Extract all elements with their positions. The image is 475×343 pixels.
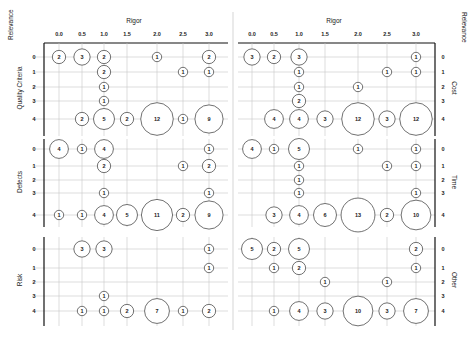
other-bubble-count: 1 xyxy=(385,279,388,285)
right-x-tick-label: 3.0 xyxy=(412,31,420,37)
left-x-tick-label: 0.5 xyxy=(78,31,86,37)
cost-y-tick-label: 4 xyxy=(441,116,445,122)
time-bubble-count: 1 xyxy=(414,163,417,169)
cost-y-tick-label: 1 xyxy=(441,69,444,75)
time-y-tick-label: 2 xyxy=(441,177,444,183)
left-x-tick-label: 2.5 xyxy=(179,31,187,37)
right-x-tick-label: 0.0 xyxy=(248,31,256,37)
time-bubble-count: 10 xyxy=(413,212,419,218)
other-bubble-count: 1 xyxy=(414,265,417,271)
risk-y-tick-label: 0 xyxy=(32,246,35,252)
risk-y-tick-label: 1 xyxy=(32,265,35,271)
quality-criteria-bubble-count: 3 xyxy=(80,54,83,60)
risk-panel-label: Risk xyxy=(16,273,23,286)
risk-bubble-count: 1 xyxy=(181,308,184,314)
quality-criteria-panel-label: Quality Criteria xyxy=(16,66,24,109)
risk-bubble-count: 3 xyxy=(102,246,105,252)
left-y-axis-title: Relevance xyxy=(7,9,14,40)
defects-y-tick-label: 0 xyxy=(32,146,35,152)
defects-bubble-count: 1 xyxy=(80,146,83,152)
defects-bubble-count: 1 xyxy=(207,190,210,196)
defects-bubble-count: 1 xyxy=(181,163,184,169)
time-bubble-count: 3 xyxy=(272,212,275,218)
defects-y-tick-label: 1 xyxy=(32,163,35,169)
time-bubble-count: 1 xyxy=(414,190,417,196)
defects-bubble-count: 1 xyxy=(102,190,105,196)
time-y-tick-label: 3 xyxy=(441,190,444,196)
bubble-matrix-chart: Rigor0.00.51.01.52.02.53.0Rigor0.00.51.0… xyxy=(0,0,475,343)
quality-criteria-bubble-count: 2 xyxy=(57,54,60,60)
time-bubble-count: 1 xyxy=(297,163,300,169)
right-x-tick-label: 1.5 xyxy=(321,31,329,37)
cost-panel-label: Cost xyxy=(451,81,458,95)
time-bubble-count: 1 xyxy=(385,163,388,169)
time-bubble-count: 1 xyxy=(356,146,359,152)
chart-canvas: Rigor0.00.51.01.52.02.53.0Rigor0.00.51.0… xyxy=(0,0,475,343)
left-x-tick-label: 1.5 xyxy=(123,31,131,37)
other-bubble-count: 5 xyxy=(250,246,253,252)
defects-bubble-count: 2 xyxy=(207,163,210,169)
defects-y-tick-label: 3 xyxy=(32,190,35,196)
other-bubble-count: 1 xyxy=(323,279,326,285)
risk-bubble-count: 3 xyxy=(80,246,83,252)
cost-y-tick-label: 3 xyxy=(441,98,444,104)
risk-bubble-count: 2 xyxy=(207,308,210,314)
time-bubble-count: 1 xyxy=(414,146,417,152)
other-bubble-count: 1 xyxy=(272,308,275,314)
cost-bubble-count: 1 xyxy=(297,69,300,75)
cost-bubble-count: 3 xyxy=(385,116,388,122)
time-y-tick-label: 4 xyxy=(441,212,445,218)
left-x-tick-label: 2.0 xyxy=(153,31,161,37)
other-panel-label: Other xyxy=(451,272,458,289)
risk-y-tick-label: 3 xyxy=(32,293,35,299)
quality-criteria-bubble-count: 1 xyxy=(181,69,184,75)
cost-y-tick-label: 0 xyxy=(441,54,444,60)
cost-bubble-count: 1 xyxy=(414,69,417,75)
time-bubble-count: 6 xyxy=(323,212,326,218)
other-y-tick-label: 2 xyxy=(441,279,444,285)
time-y-tick-label: 1 xyxy=(441,163,444,169)
right-y-axis-title: Relevance xyxy=(461,12,468,43)
other-bubble-count: 1 xyxy=(272,265,275,271)
left-x-tick-label: 1.0 xyxy=(100,31,108,37)
time-bubble-count: 5 xyxy=(297,146,300,152)
defects-y-tick-label: 2 xyxy=(32,177,35,183)
right-x-axis-title: Rigor xyxy=(326,17,342,25)
risk-bubble-count: 1 xyxy=(102,308,105,314)
left-x-axis-title: Rigor xyxy=(126,17,142,25)
cost-bubble-count: 3 xyxy=(323,116,326,122)
defects-panel-label: Defects xyxy=(16,170,23,193)
other-bubble-count: 7 xyxy=(414,308,417,314)
right-x-tick-label: 1.0 xyxy=(295,31,303,37)
quality-criteria-y-tick-label: 0 xyxy=(32,54,35,60)
cost-bubble-count: 2 xyxy=(297,98,300,104)
quality-criteria-bubble-count: 1 xyxy=(181,116,184,122)
defects-bubble-count: 2 xyxy=(181,212,184,218)
quality-criteria-bubble-count: 2 xyxy=(102,69,105,75)
other-y-tick-label: 1 xyxy=(441,265,444,271)
cost-bubble-count: 12 xyxy=(355,116,361,122)
right-x-tick-label: 2.0 xyxy=(354,31,362,37)
quality-criteria-bubble-count: 5 xyxy=(102,116,105,122)
time-bubble-count: 1 xyxy=(297,177,300,183)
right-x-tick-label: 0.5 xyxy=(270,31,278,37)
quality-criteria-bubble-count: 2 xyxy=(102,54,105,60)
quality-criteria-bubble-count: 1 xyxy=(207,69,210,75)
quality-criteria-bubble-count: 1 xyxy=(155,54,158,60)
defects-bubble-count: 1 xyxy=(80,212,83,218)
other-bubble-count: 5 xyxy=(297,246,300,252)
cost-bubble-count: 1 xyxy=(414,54,417,60)
defects-bubble-count: 1 xyxy=(207,146,210,152)
left-x-tick-label: 0.0 xyxy=(55,31,63,37)
risk-y-tick-label: 2 xyxy=(32,279,35,285)
other-bubble-count: 3 xyxy=(323,308,326,314)
cost-bubble-count: 3 xyxy=(297,54,300,60)
risk-bubble-count: 2 xyxy=(125,308,128,314)
other-bubble-count: 10 xyxy=(355,308,361,314)
cost-bubble-count: 2 xyxy=(272,54,275,60)
cost-bubble-count: 1 xyxy=(385,69,388,75)
left-x-tick-label: 3.0 xyxy=(205,31,213,37)
risk-bubble-count: 1 xyxy=(102,293,105,299)
quality-criteria-bubble-count: 12 xyxy=(154,116,160,122)
defects-bubble-count: 5 xyxy=(125,212,128,218)
